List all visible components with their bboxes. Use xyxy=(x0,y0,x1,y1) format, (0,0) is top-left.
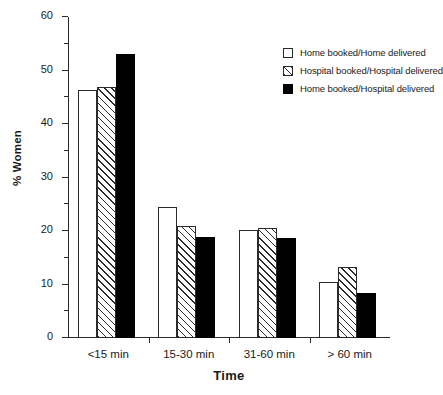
x-category-label: > 60 min xyxy=(328,348,372,360)
y-tick-label: 20 xyxy=(41,223,53,235)
bar xyxy=(319,282,338,338)
y-tick: 30 xyxy=(62,177,68,178)
y-tick-minor xyxy=(64,257,68,258)
chart-legend: Home booked/Home deliveredHospital booke… xyxy=(283,45,443,99)
bar xyxy=(116,54,135,338)
bar xyxy=(239,230,258,338)
y-tick: 0 xyxy=(62,337,68,338)
y-tick-label: 40 xyxy=(41,116,53,128)
x-tick xyxy=(229,338,230,343)
y-tick-label: 50 xyxy=(41,63,53,75)
y-tick-label: 60 xyxy=(41,9,53,21)
legend-swatch-open-icon xyxy=(283,48,293,58)
y-tick: 50 xyxy=(62,70,68,71)
bar xyxy=(357,293,376,338)
x-tick xyxy=(149,338,150,343)
legend-label: Hospital booked/Hospital delivered xyxy=(300,65,443,76)
y-tick: 40 xyxy=(62,123,68,124)
x-tick xyxy=(310,338,311,343)
y-tick-label: 30 xyxy=(41,170,53,182)
legend-label: Home booked/Home delivered xyxy=(300,47,426,58)
legend-swatch-hatch-icon xyxy=(283,66,293,76)
bar xyxy=(277,238,296,338)
y-axis-title: % Women xyxy=(11,113,23,203)
legend-item[interactable]: Home booked/Hospital delivered xyxy=(283,81,443,96)
bar xyxy=(258,228,277,338)
bar xyxy=(196,237,215,338)
legend-item[interactable]: Home booked/Home delivered xyxy=(283,45,443,60)
x-category-label: 15-30 min xyxy=(163,348,214,360)
x-axis-title: Time xyxy=(68,368,390,383)
bar xyxy=(177,226,196,338)
y-tick-label: 0 xyxy=(47,330,53,342)
y-axis-line xyxy=(68,17,69,338)
y-tick-minor xyxy=(64,203,68,204)
legend-swatch-solid-icon xyxy=(283,84,293,94)
y-tick-minor xyxy=(64,43,68,44)
bar xyxy=(97,87,116,338)
y-tick: 10 xyxy=(62,284,68,285)
y-tick: 20 xyxy=(62,230,68,231)
y-tick: 60 xyxy=(62,16,68,17)
bar xyxy=(338,267,357,338)
x-category-label: 31-60 min xyxy=(244,348,295,360)
bar xyxy=(78,90,97,338)
y-tick-minor xyxy=(64,310,68,311)
y-tick-minor xyxy=(64,150,68,151)
y-tick-label: 10 xyxy=(41,277,53,289)
legend-label: Home booked/Hospital delivered xyxy=(300,83,434,94)
x-category-label: <15 min xyxy=(88,348,129,360)
y-tick-minor xyxy=(64,96,68,97)
bar xyxy=(158,207,177,338)
legend-item[interactable]: Hospital booked/Hospital delivered xyxy=(283,63,443,78)
